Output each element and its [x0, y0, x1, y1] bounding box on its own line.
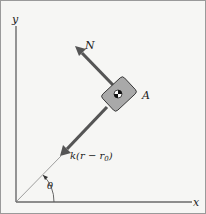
spring-force-shaft	[67, 107, 107, 149]
spring-force-label: k(r − r0)	[70, 150, 113, 163]
block-label: A	[141, 89, 150, 102]
diagram-frame: y x θ k(r − r0) N A	[0, 0, 206, 214]
x-axis-label: x	[193, 196, 200, 209]
y-axis-label: y	[11, 13, 19, 26]
normal-force-label: N	[84, 39, 95, 52]
normal-force-shaft	[82, 53, 113, 85]
diagram-canvas: y x θ k(r − r0) N A	[1, 1, 206, 214]
angle-label: θ	[47, 180, 53, 191]
radial-line	[16, 156, 61, 202]
center-of-mass-icon	[114, 90, 122, 98]
